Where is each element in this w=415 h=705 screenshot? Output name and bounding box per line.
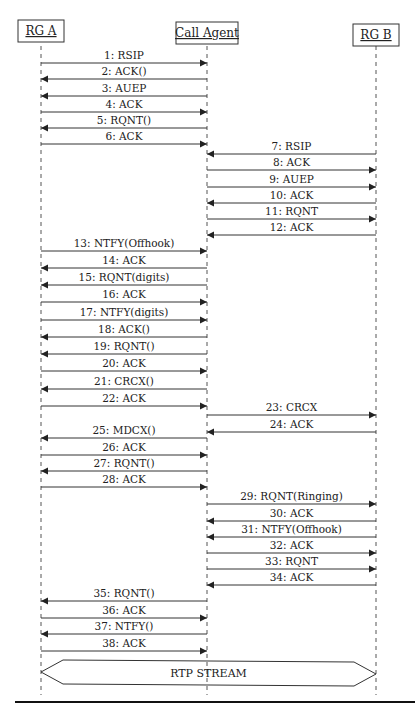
actors: RG ACall AgentRG B xyxy=(18,20,399,46)
message-label: 29: RQNT(Ringing) xyxy=(240,490,343,502)
message-label: 32: ACK xyxy=(270,539,314,551)
message: 22: ACK xyxy=(41,392,207,406)
message: 18: ACK() xyxy=(41,323,207,337)
message-label: 11: RQNT xyxy=(265,205,318,217)
sequence-diagram: RG ACall AgentRG B 1: RSIP2: ACK()3: AUE… xyxy=(0,0,415,705)
message: 16: ACK xyxy=(41,288,207,302)
message: 21: CRCX() xyxy=(41,375,207,389)
message-label: 30: ACK xyxy=(270,507,314,519)
message: 13: NTFY(Offhook) xyxy=(41,237,207,251)
message-label: 35: RQNT() xyxy=(93,587,154,599)
message: 17: NTFY(digits) xyxy=(41,306,207,320)
message: 23: CRCX xyxy=(207,401,376,415)
message-label: 9: AUEP xyxy=(269,173,314,185)
message-label: 21: CRCX() xyxy=(94,375,154,387)
message-label: 37: NTFY() xyxy=(95,620,154,632)
message-label: 14: ACK xyxy=(102,254,146,266)
message-label: 24: ACK xyxy=(270,418,314,430)
message: 38: ACK xyxy=(41,637,207,651)
message: 32: ACK xyxy=(207,539,376,553)
message-label: 1: RSIP xyxy=(104,49,144,61)
message: 1: RSIP xyxy=(41,49,207,63)
message-label: 33: RQNT xyxy=(265,555,318,567)
message-label: 18: ACK() xyxy=(98,323,150,335)
actor-label-rgb: RG B xyxy=(360,28,391,42)
message: 24: ACK xyxy=(207,418,376,432)
message: 12: ACK xyxy=(207,221,376,235)
message: 14: ACK xyxy=(41,254,207,268)
messages: 1: RSIP2: ACK()3: AUEP4: ACK5: RQNT()6: … xyxy=(41,49,376,651)
message-label: 8: ACK xyxy=(273,156,310,168)
actor-label-rga: RG A xyxy=(25,24,56,38)
message-label: 19: RQNT() xyxy=(93,340,154,352)
message-label: 17: NTFY(digits) xyxy=(80,306,169,318)
message: 37: NTFY() xyxy=(41,620,207,634)
message: 10: ACK xyxy=(207,189,376,203)
message-label: 20: ACK xyxy=(102,357,146,369)
message: 31: NTFY(Offhook) xyxy=(207,523,376,537)
message: 30: ACK xyxy=(207,507,376,521)
message: 33: RQNT xyxy=(207,555,376,569)
message: 3: AUEP xyxy=(41,82,207,96)
message-label: 25: MDCX() xyxy=(92,424,155,436)
message-label: 26: ACK xyxy=(102,441,146,453)
message-label: 23: CRCX xyxy=(266,401,318,413)
rtp-stream-label: RTP STREAM xyxy=(170,667,247,680)
message-label: 2: ACK() xyxy=(101,65,146,77)
message-label: 22: ACK xyxy=(102,392,146,404)
message: 5: RQNT() xyxy=(41,114,207,128)
message-label: 13: NTFY(Offhook) xyxy=(74,237,175,249)
message-label: 3: AUEP xyxy=(102,82,147,94)
message-label: 16: ACK xyxy=(102,288,146,300)
message: 15: RQNT(digits) xyxy=(41,271,207,285)
message: 36: ACK xyxy=(41,604,207,618)
message: 20: ACK xyxy=(41,357,207,371)
message-label: 7: RSIP xyxy=(272,140,312,152)
message-label: 34: ACK xyxy=(270,571,314,583)
message: 34: ACK xyxy=(207,571,376,585)
message: 28: ACK xyxy=(41,473,207,487)
message: 11: RQNT xyxy=(207,205,376,219)
message-label: 38: ACK xyxy=(102,637,146,649)
message: 35: RQNT() xyxy=(41,587,207,601)
message: 27: RQNT() xyxy=(41,457,207,471)
message: 29: RQNT(Ringing) xyxy=(207,490,376,504)
message: 19: RQNT() xyxy=(41,340,207,354)
message-label: 31: NTFY(Offhook) xyxy=(241,523,342,535)
message: 25: MDCX() xyxy=(41,424,207,438)
actor-label-ca: Call Agent xyxy=(175,26,239,40)
message: 4: ACK xyxy=(41,98,207,112)
message-label: 27: RQNT() xyxy=(93,457,154,469)
message-label: 6: ACK xyxy=(105,130,142,142)
message-label: 4: ACK xyxy=(105,98,142,110)
message-label: 36: ACK xyxy=(102,604,146,616)
message-label: 10: ACK xyxy=(270,189,314,201)
message-label: 5: RQNT() xyxy=(97,114,151,126)
message: 26: ACK xyxy=(41,441,207,455)
message-label: 28: ACK xyxy=(102,473,146,485)
message: 9: AUEP xyxy=(207,173,376,187)
rtp-stream: RTP STREAM xyxy=(41,660,376,686)
message: 6: ACK xyxy=(41,130,207,144)
message-label: 15: RQNT(digits) xyxy=(79,271,170,283)
message-label: 12: ACK xyxy=(270,221,314,233)
message: 7: RSIP xyxy=(207,140,376,154)
message: 2: ACK() xyxy=(41,65,207,79)
message: 8: ACK xyxy=(207,156,376,170)
